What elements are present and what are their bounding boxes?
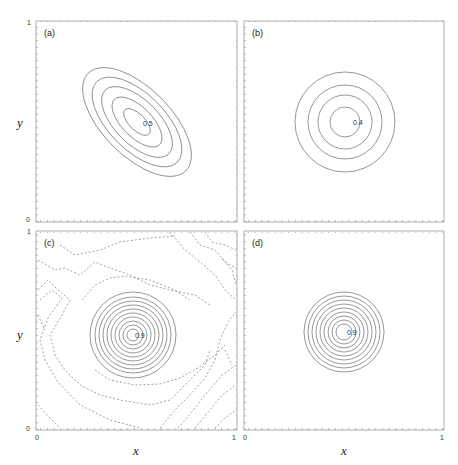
dashed-contour xyxy=(190,232,236,268)
contour-ring xyxy=(318,95,372,149)
panel-c-label: (c) xyxy=(44,238,55,248)
y-tick-1-top: 1 xyxy=(27,19,31,26)
dashed-contour xyxy=(38,315,45,330)
contour-ring xyxy=(320,308,368,356)
y-tick-0-top: 0 xyxy=(26,216,30,223)
contour-ring xyxy=(316,304,372,360)
contour-ring xyxy=(103,305,163,365)
dashed-contour xyxy=(95,345,225,385)
panel-d-top-ticks xyxy=(244,231,444,233)
panel-a-contours xyxy=(64,49,210,195)
x-tick-1-right: 1 xyxy=(440,434,444,441)
x-axis-label-left: x xyxy=(132,443,139,458)
x-tick-1-left: 1 xyxy=(232,434,236,441)
y-axis-label-bottom: y xyxy=(15,327,23,342)
dashed-contour xyxy=(215,410,236,428)
panel-a-right-ticks xyxy=(235,21,237,222)
panel-c-bottom-ticks xyxy=(36,428,237,430)
panel-a-bottom-ticks xyxy=(36,220,237,222)
y-tick-0-bottom: 0 xyxy=(26,425,30,432)
x-tick-0-right: 0 xyxy=(243,434,247,441)
x-axis-label-right: x xyxy=(340,443,347,458)
figure-canvas: (a) 0.5 (b) 0.4 xyxy=(0,0,458,465)
panel-c-left-ticks xyxy=(36,231,38,430)
x-tick-0-left: 0 xyxy=(35,434,39,441)
contour-ring xyxy=(295,72,395,172)
panel-c-peak-label: 0.9 xyxy=(135,332,145,339)
panel-d: (d) 0.9 xyxy=(244,231,444,430)
panel-d-right-ticks xyxy=(442,231,444,430)
y-tick-1-bottom: 1 xyxy=(27,228,31,235)
panel-b-peak-label: 0.4 xyxy=(353,119,363,126)
panel-c-dashed-contours xyxy=(38,232,236,428)
dashed-contour xyxy=(38,280,210,405)
dashed-contour xyxy=(160,312,236,428)
panel-b-label: (b) xyxy=(252,28,263,38)
panel-c-top-ticks xyxy=(36,231,237,233)
panel-a: (a) 0.5 xyxy=(36,21,237,222)
panel-b-top-ticks xyxy=(244,21,444,23)
dashed-contour xyxy=(38,405,60,428)
contour-ring xyxy=(64,49,210,195)
contour-ring xyxy=(95,297,171,373)
panel-d-contours xyxy=(304,292,384,372)
contour-ring xyxy=(308,85,382,159)
panel-c-right-ticks xyxy=(235,231,237,430)
dashed-contour xyxy=(40,290,140,428)
contour-ring xyxy=(99,301,167,369)
panel-b-left-ticks xyxy=(244,21,246,222)
panel-a-label: (a) xyxy=(44,28,55,38)
panel-a-frame xyxy=(36,21,237,222)
dashed-contour xyxy=(222,258,236,285)
dashed-contour xyxy=(225,350,232,365)
contour-ring xyxy=(324,312,364,352)
panel-c-contours xyxy=(90,292,176,378)
panel-d-left-ticks xyxy=(244,231,246,430)
panel-b-contours xyxy=(295,72,395,172)
contour-ring xyxy=(111,313,155,357)
panel-d-label: (d) xyxy=(252,238,263,248)
panel-a-left-ticks xyxy=(36,21,38,222)
contour-ring xyxy=(308,296,380,368)
panel-c: (c) 0.9 xyxy=(36,231,237,430)
contour-ring xyxy=(115,317,151,353)
panel-b-frame xyxy=(244,21,444,222)
panel-b-bottom-ticks xyxy=(244,220,444,222)
contour-ring xyxy=(312,300,376,364)
panel-d-bottom-ticks xyxy=(244,428,444,430)
panel-a-top-ticks xyxy=(36,21,237,23)
y-axis-label-top: y xyxy=(15,115,23,130)
dashed-contour xyxy=(170,232,236,300)
dashed-contour xyxy=(195,385,236,428)
panel-d-peak-label: 0.9 xyxy=(347,329,357,336)
panel-d-frame xyxy=(244,231,444,430)
dashed-contour xyxy=(82,276,190,300)
panel-b: (b) 0.4 xyxy=(244,21,444,222)
panel-a-peak-label: 0.5 xyxy=(143,120,153,127)
dashed-contour xyxy=(205,232,236,250)
panel-b-right-ticks xyxy=(442,21,444,222)
dashed-contour xyxy=(60,236,175,255)
